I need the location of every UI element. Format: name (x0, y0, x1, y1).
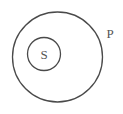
euler-diagram: S P (0, 0, 123, 114)
set-p-label: P (106, 26, 113, 41)
set-p-circle (13, 12, 103, 102)
set-s-label: S (40, 47, 47, 62)
diagram-canvas: S P (0, 0, 123, 114)
